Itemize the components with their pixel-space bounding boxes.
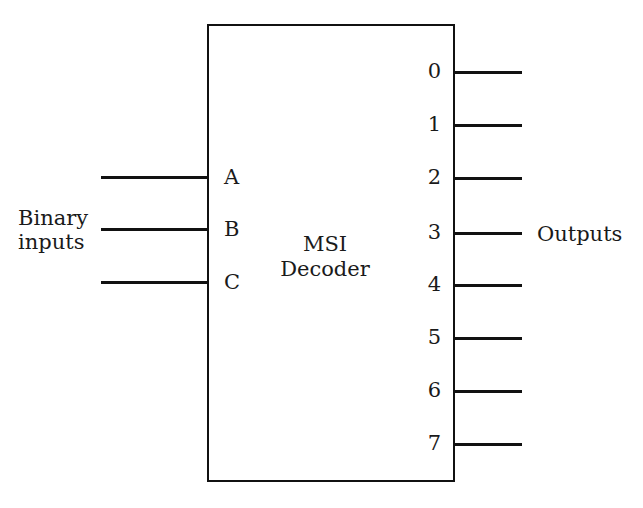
output-wire-3 (453, 232, 522, 235)
output-wire-5 (453, 337, 522, 340)
output-wire-0 (453, 71, 522, 74)
input-pin-label-b: B (224, 219, 239, 240)
input-wire-b (101, 228, 209, 231)
output-pin-label-3: 3 (419, 222, 441, 243)
diagram-canvas: MSI Decoder A B C 0 1 2 3 4 5 6 7 Binary… (0, 0, 643, 508)
output-pin-label-6: 6 (419, 380, 441, 401)
output-pin-label-2: 2 (419, 167, 441, 188)
binary-inputs-label-line2: inputs (18, 230, 84, 254)
output-pin-label-5: 5 (419, 327, 441, 348)
output-wire-1 (453, 124, 522, 127)
outputs-label: Outputs (537, 222, 622, 246)
output-pin-label-7: 7 (419, 433, 441, 454)
binary-inputs-label-line1: Binary (18, 206, 88, 230)
output-wire-6 (453, 390, 522, 393)
output-wire-4 (453, 284, 522, 287)
output-wire-7 (453, 443, 522, 446)
decoder-title-line2: Decoder (245, 257, 405, 281)
input-pin-label-c: C (224, 272, 240, 293)
input-wire-a (101, 176, 209, 179)
input-pin-label-a: A (224, 167, 239, 188)
output-pin-label-0: 0 (419, 61, 441, 82)
output-pin-label-1: 1 (419, 114, 441, 135)
decoder-title-line1: MSI (245, 232, 405, 256)
output-wire-2 (453, 177, 522, 180)
input-wire-c (101, 281, 209, 284)
output-pin-label-4: 4 (419, 274, 441, 295)
